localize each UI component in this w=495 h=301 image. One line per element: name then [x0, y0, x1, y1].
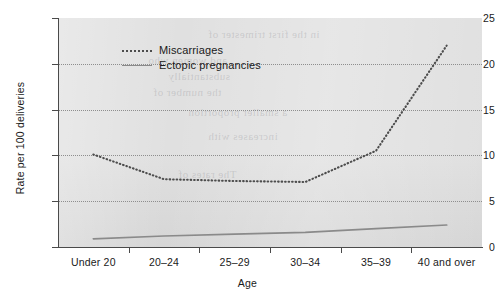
y-tick-mark: [52, 110, 58, 111]
x-tick-label: 25–29: [220, 256, 250, 268]
y-tick-mark: [52, 247, 58, 248]
x-tick-label: 40 and over: [418, 256, 476, 268]
y-tick-label: 15: [449, 104, 495, 116]
series-line-ectopic-pregnancies: [93, 225, 446, 239]
chart-figure: PREGNANCY in the first trimester of and …: [0, 0, 495, 301]
y-tick-mark: [52, 18, 58, 19]
y-tick-label: 10: [449, 149, 495, 161]
y-tick-label: 0: [449, 241, 495, 253]
solid-line-swatch-icon: [122, 60, 152, 70]
x-tick-mark: [270, 247, 271, 253]
y-axis-title: Rate per 100 deliveries: [14, 48, 26, 228]
y-tick-label: 25: [449, 12, 495, 24]
legend-label: Ectopic pregnancies: [159, 59, 261, 71]
x-tick-mark: [411, 247, 412, 253]
y-tick-mark: [52, 64, 58, 65]
legend-item-miscarriages: Miscarriages: [122, 42, 261, 57]
x-tick-label: Under 20: [71, 256, 116, 268]
dotted-line-swatch-icon: [122, 45, 152, 55]
x-tick-mark: [199, 247, 200, 253]
x-axis-title: Age: [0, 277, 495, 289]
legend-label: Miscarriages: [159, 44, 223, 56]
x-tick-mark: [129, 247, 130, 253]
y-tick-label: 20: [449, 58, 495, 70]
x-tick-label: 20–24: [149, 256, 179, 268]
plot-area: PREGNANCY in the first trimester of and …: [58, 18, 482, 247]
y-axis-line: [58, 18, 59, 248]
y-tick-label: 5: [449, 195, 495, 207]
legend-item-ectopic-pregnancies: Ectopic pregnancies: [122, 57, 261, 72]
x-tick-mark: [341, 247, 342, 253]
y-tick-mark: [52, 155, 58, 156]
y-tick-mark: [52, 201, 58, 202]
x-tick-label: 30–34: [290, 256, 320, 268]
x-tick-label: 35–39: [361, 256, 391, 268]
chart-legend: Miscarriages Ectopic pregnancies: [120, 40, 265, 75]
